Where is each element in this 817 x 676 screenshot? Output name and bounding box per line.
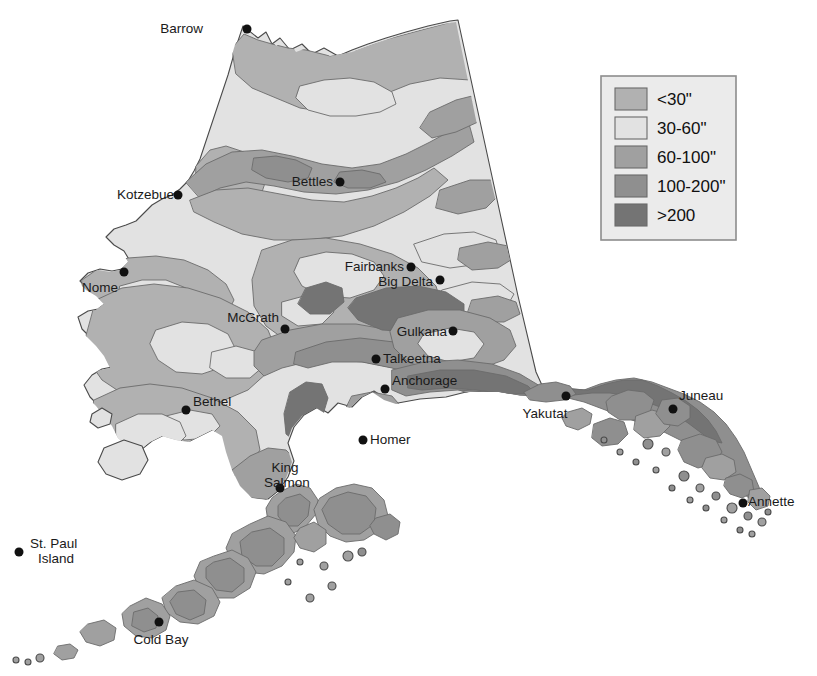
city-dot-fairbanks[interactable]	[407, 263, 416, 272]
legend-swatch-3	[615, 175, 647, 197]
southeast-panhandle	[524, 378, 771, 537]
city-dot-bettles[interactable]	[336, 178, 345, 187]
city-dot-st-paul-island[interactable]	[15, 548, 24, 557]
legend-label-4: >200	[657, 206, 695, 225]
city-dot-barrow[interactable]	[243, 25, 252, 34]
city-dot-homer[interactable]	[359, 436, 368, 445]
city-label-king-salmon: King Salmon	[264, 460, 310, 490]
legend-swatch-4	[615, 204, 647, 226]
city-dot-yakutat[interactable]	[562, 392, 571, 401]
city-label-fairbanks: Fairbanks	[345, 259, 405, 274]
city-dot-anchorage[interactable]	[381, 385, 390, 394]
legend-label-3: 100-200"	[657, 177, 725, 196]
city-label-yakutat: Yakutat	[523, 406, 568, 421]
legend-label-0: <30"	[657, 90, 692, 109]
city-dot-gulkana[interactable]	[449, 327, 458, 336]
city-dot-big-delta[interactable]	[436, 276, 445, 285]
city-label-st-paul-island: St. Paul Island	[30, 536, 81, 566]
map-page: Barrow Kotzebue Bettles Nome Fairbanks B…	[0, 0, 817, 676]
city-dot-nome[interactable]	[120, 268, 129, 277]
city-label-mcgrath: McGrath	[227, 310, 279, 325]
city-label-anchorage: Anchorage	[392, 373, 457, 388]
city-label-cold-bay: Cold Bay	[134, 632, 189, 647]
city-dot-mcgrath[interactable]	[281, 325, 290, 334]
city-dot-talkeetna[interactable]	[372, 355, 381, 364]
city-label-bettles: Bettles	[292, 174, 334, 189]
legend-swatch-0	[615, 88, 647, 110]
city-label-bethel: Bethel	[193, 394, 231, 409]
city-label-gulkana: Gulkana	[397, 324, 448, 339]
city-label-nome: Nome	[82, 280, 118, 295]
city-dot-juneau[interactable]	[669, 405, 678, 414]
city-label-barrow: Barrow	[160, 21, 203, 36]
city-dot-annette[interactable]	[739, 499, 748, 508]
city-dot-kotzebue[interactable]	[174, 191, 183, 200]
precipitation-contours	[82, 20, 546, 500]
city-label-talkeetna: Talkeetna	[383, 351, 441, 366]
legend-label-1: 30-60"	[657, 119, 707, 138]
city-label-juneau: Juneau	[679, 388, 723, 403]
city-dot-cold-bay[interactable]	[155, 618, 164, 627]
aleutian-chain	[13, 484, 400, 665]
legend: <30" 30-60" 60-100" 100-200" >200	[601, 76, 736, 240]
city-label-big-delta: Big Delta	[378, 274, 433, 289]
city-dot-bethel[interactable]	[182, 406, 191, 415]
city-label-homer: Homer	[370, 432, 411, 447]
city-label-kotzebue: Kotzebue	[117, 187, 174, 202]
legend-swatch-2	[615, 146, 647, 168]
legend-swatch-1	[615, 117, 647, 139]
alaska-precipitation-map: Barrow Kotzebue Bettles Nome Fairbanks B…	[0, 0, 817, 676]
city-label-annette: Annette	[748, 494, 795, 509]
legend-label-2: 60-100"	[657, 148, 716, 167]
